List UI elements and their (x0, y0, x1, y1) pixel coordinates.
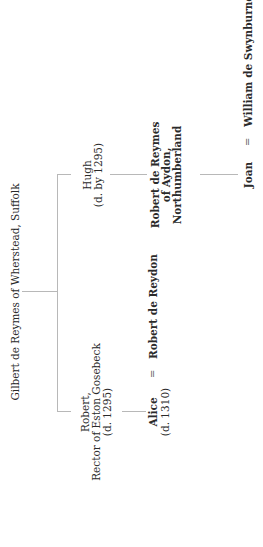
robert-to-joan-line (200, 174, 238, 175)
node-robert-de-reydon: Robert de Reydon (148, 239, 159, 359)
alice-dates: (d. 1310) (160, 387, 171, 437)
alice-marriage-sign: = (147, 370, 158, 378)
alice-dates-text: (d. 1310) (159, 388, 171, 436)
william-name: William de Swynburne (242, 0, 254, 127)
hugh-dates: (d. by 1295) (93, 125, 104, 225)
root-gilbert-de-reymes: Gilbert de Reymes of Wherstead, Suffolk (10, 167, 21, 417)
alice-name: Alice (147, 397, 159, 426)
node-robert-de-reymes-aydon: Robert de Reymes of Aydon, Northumberlan… (150, 115, 183, 235)
node-joan: Joan (243, 155, 254, 195)
root-name: Gilbert de Reymes of Wherstead, Suffolk (9, 183, 21, 400)
robert-to-alice-line (122, 411, 146, 412)
node-william-de-swynburne: William de Swynburne (243, 0, 254, 127)
root-stem-line (22, 291, 57, 292)
hugh-to-robert-line (110, 174, 147, 175)
children-bar-line (57, 174, 58, 412)
robert-dates: (d. 1295) (102, 342, 113, 482)
node-hugh: Hugh (d. by 1295) (82, 125, 104, 225)
family-tree-diagram: Gilbert de Reymes of Wherstead, Suffolk … (0, 0, 263, 547)
node-robert-rector: Robert, Rector of Eston Gosebeck (d. 129… (80, 342, 113, 482)
node-alice: Alice (148, 387, 159, 437)
robert-de-reydon-name: Robert de Reydon (147, 254, 159, 359)
joan-marriage-sign: = (242, 138, 253, 146)
hugh-drop-line (57, 174, 71, 175)
robert-drop-line (57, 411, 71, 412)
robert-aydon-line3: Northumberland (172, 115, 183, 235)
joan-name: Joan (242, 162, 254, 188)
